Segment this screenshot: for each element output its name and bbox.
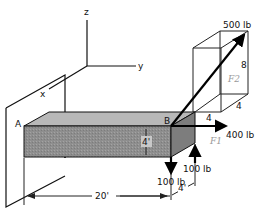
- force-box: 8 4 4 F2: [193, 31, 248, 123]
- box-width-dimension: 4: [206, 113, 212, 123]
- x-axis: [49, 66, 87, 89]
- coordinate-axes: z y x: [40, 7, 144, 99]
- beam-height-dimension: 4': [142, 137, 150, 147]
- force-100-down-label: 100 lb: [157, 177, 186, 187]
- point-a-label: A: [15, 119, 22, 129]
- point-b-label: B: [164, 116, 170, 126]
- f2-label: F2: [227, 74, 240, 84]
- box-depth-dimension: 4: [236, 101, 242, 111]
- force-400-label: 400 lb: [226, 130, 255, 140]
- force-100-up-label: 100 lb: [183, 164, 212, 174]
- f1-label: F1: [209, 136, 222, 146]
- box-height-dimension: 8: [241, 60, 247, 70]
- x-axis-label: x: [40, 89, 46, 99]
- beam-length-dimension: 20': [95, 191, 109, 201]
- beam: 4' A B: [15, 112, 195, 157]
- statics-diagram: z y x 4' A B 20' 4': [0, 0, 256, 212]
- force-500-label: 500 lb: [223, 20, 252, 30]
- y-axis-label: y: [138, 61, 144, 71]
- z-axis-label: z: [84, 7, 89, 17]
